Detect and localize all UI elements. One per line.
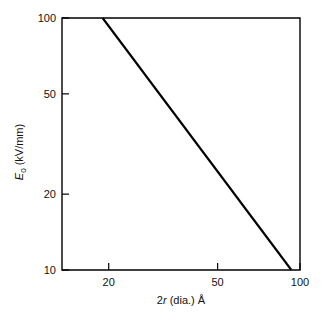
x-axis-title: 2r (dia.) Å [157,294,206,306]
x-tick-label-100: 100 [291,276,309,288]
chart-figure: 100 50 20 10 20 50 100 E0 (kV/mm) 2r (di… [0,0,321,318]
y-tick-label-10: 10 [44,264,56,276]
x-tick-label-50: 50 [211,276,223,288]
x-tick-label-20: 20 [103,276,115,288]
x-axis-title-rest: (dia.) Å [167,294,206,306]
log-log-chart: 100 50 20 10 20 50 100 E0 (kV/mm) 2r (di… [0,0,321,318]
y-tick-label-20: 20 [44,188,56,200]
y-tick-label-50: 50 [44,88,56,100]
y-tick-label-100: 100 [38,12,56,24]
svg-text:2r (dia.) Å: 2r (dia.) Å [157,294,206,306]
y-axis-title-unit: (kV/mm) [13,124,25,169]
